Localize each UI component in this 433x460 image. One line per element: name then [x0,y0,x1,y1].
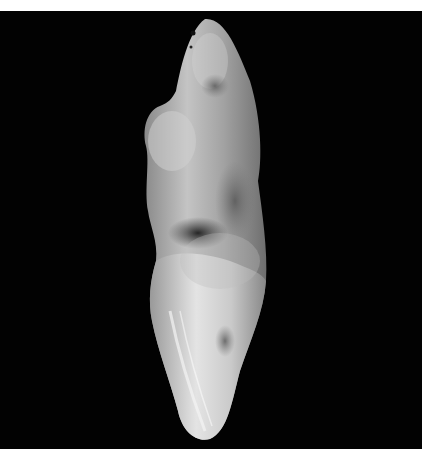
tooth-photo [0,11,422,449]
tooth-illustration [0,11,422,449]
